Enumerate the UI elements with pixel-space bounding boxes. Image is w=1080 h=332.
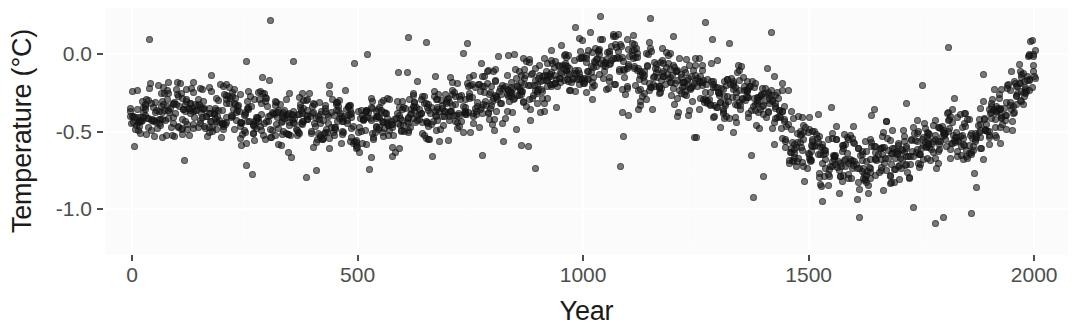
scatter-point (364, 51, 371, 58)
scatter-point (579, 37, 586, 44)
x-axis-tick-mark (1033, 255, 1035, 261)
scatter-point (935, 160, 942, 167)
scatter-point (1009, 127, 1016, 134)
scatter-point (889, 127, 896, 134)
scatter-point (756, 125, 763, 132)
scatter-point (589, 96, 596, 103)
scatter-point (801, 178, 808, 185)
scatter-point (714, 57, 721, 64)
scatter-point (458, 118, 465, 125)
scatter-point (728, 75, 735, 82)
scatter-point (532, 165, 539, 172)
scatter-point (997, 140, 1004, 147)
scatter-point (1020, 101, 1027, 108)
scatter-point (447, 74, 454, 81)
scatter-point (243, 58, 250, 65)
scatter-point (165, 90, 172, 97)
scatter-point (504, 72, 511, 79)
scatter-point (414, 78, 421, 85)
scatter-point (338, 140, 345, 147)
scatter-point (249, 171, 256, 178)
x-axis-tick-marks (105, 255, 1068, 263)
gridline-horizontal (105, 208, 1068, 210)
scatter-point (856, 186, 863, 193)
scatter-point (237, 91, 244, 98)
scatter-point (218, 134, 225, 141)
scatter-point (386, 96, 393, 103)
scatter-point (630, 32, 637, 39)
scatter-point (917, 151, 924, 158)
scatter-point (822, 147, 829, 154)
scatter-point (423, 39, 430, 46)
scatter-point (799, 114, 806, 121)
scatter-point (362, 127, 369, 134)
scatter-point (572, 88, 579, 95)
scatter-point (900, 127, 907, 134)
scatter-point (511, 51, 518, 58)
scatter-point (675, 109, 682, 116)
scatter-point (278, 142, 285, 149)
scatter-point (597, 13, 604, 20)
scatter-point (395, 69, 402, 76)
scatter-point (649, 106, 656, 113)
x-axis-title: Year (105, 296, 1068, 327)
x-axis-tick-label: 500 (340, 263, 375, 287)
y-axis-tick-mark (97, 131, 103, 133)
scatter-point (689, 98, 696, 105)
x-axis-tick-label: 2000 (1011, 263, 1058, 287)
scatter-point (917, 161, 924, 168)
scatter-point (932, 220, 939, 227)
scatter-point (151, 133, 158, 140)
scatter-point (548, 47, 555, 54)
gridline-vertical (1033, 8, 1035, 255)
scatter-point (752, 80, 759, 87)
gridline-horizontal-minor (105, 246, 1068, 247)
scatter-point (572, 24, 579, 31)
scatter-point (525, 143, 532, 150)
scatter-point (1032, 75, 1039, 82)
scatter-point (618, 43, 625, 50)
scatter-point (764, 65, 771, 72)
scatter-point (966, 116, 973, 123)
y-axis-tick-labels: 0.0-0.5-1.0 (30, 0, 92, 262)
scatter-point (871, 106, 878, 113)
scatter-point (326, 145, 333, 152)
scatter-point (190, 89, 197, 96)
scatter-point (369, 98, 376, 105)
scatter-point (868, 112, 875, 119)
scatter-point (527, 117, 534, 124)
x-axis-tick-mark (582, 255, 584, 261)
y-axis-tick-label: -0.5 (32, 120, 92, 144)
scatter-point (410, 90, 417, 97)
scatter-point (266, 77, 273, 84)
scatter-point (765, 109, 772, 116)
scatter-point (833, 136, 840, 143)
scatter-point (634, 54, 641, 61)
scatter-point (245, 88, 252, 95)
scatter-point (544, 95, 551, 102)
scatter-point (896, 176, 903, 183)
scatter-point (1008, 68, 1015, 75)
scatter-point (436, 138, 443, 145)
scatter-point (750, 194, 757, 201)
scatter-point (781, 116, 788, 123)
x-axis-tick-labels: 0500100015002000 (105, 263, 1068, 293)
scatter-point (856, 214, 863, 221)
scatter-point (781, 103, 788, 110)
scatter-point (986, 141, 993, 148)
scatter-point (597, 36, 604, 43)
scatter-point (251, 137, 258, 144)
scatter-point (643, 96, 650, 103)
scatter-point (977, 145, 984, 152)
scatter-point (760, 173, 767, 180)
scatter-point (497, 100, 504, 107)
scatter-point (478, 60, 485, 67)
scatter-point (489, 121, 496, 128)
scatter-point (587, 29, 594, 36)
scatter-point (865, 190, 872, 197)
scatter-point (854, 196, 861, 203)
scatter-point (416, 106, 423, 113)
scatter-point (460, 129, 467, 136)
scatter-point (479, 152, 486, 159)
gridline-vertical (582, 8, 584, 255)
